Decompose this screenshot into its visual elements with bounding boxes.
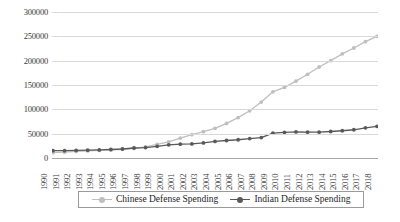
data-point-marker	[144, 146, 148, 150]
data-point-marker	[190, 142, 194, 146]
x-axis-tick-label: 1995	[97, 180, 107, 190]
data-point-marker	[167, 143, 171, 147]
data-point-marker	[178, 142, 182, 146]
data-point-marker	[121, 147, 125, 151]
chart-legend: Chinese Defense SpendingIndian Defense S…	[78, 191, 364, 208]
data-point-marker	[97, 148, 101, 152]
gridline	[52, 109, 378, 110]
x-axis-tick-label: 1996	[108, 180, 118, 190]
x-axis-tick-label: 2005	[213, 180, 223, 190]
data-point-marker	[213, 140, 217, 144]
x-axis-tick-label: 2016	[340, 180, 350, 190]
x-axis-tick-label: 2000	[155, 180, 165, 190]
data-point-marker	[225, 139, 229, 143]
x-axis-tick-label: 2012	[294, 180, 304, 190]
data-point-marker	[86, 148, 90, 152]
x-axis-tick-label: 2008	[247, 180, 257, 190]
x-axis-tick-label: 1993	[74, 180, 84, 190]
data-point-marker	[259, 136, 263, 140]
data-point-marker	[248, 137, 252, 141]
data-point-marker	[340, 52, 344, 56]
x-axis-tick-label: 2013	[305, 180, 315, 190]
legend-label: Chinese Defense Spending	[116, 195, 218, 205]
x-axis-tick-label: 2015	[328, 180, 338, 190]
data-point-marker	[155, 144, 159, 148]
data-point-marker	[178, 136, 182, 140]
legend-series-marker-icon	[230, 195, 250, 204]
defense-spending-line-chart: 050000100000150000200000250000300000 199…	[0, 0, 400, 222]
y-axis-tick-label: 300000	[2, 8, 48, 17]
x-axis-tick-label: 1999	[143, 180, 153, 190]
y-axis-tick-label: 150000	[2, 81, 48, 90]
data-point-marker	[283, 86, 287, 90]
data-point-marker	[340, 129, 344, 133]
legend-label: Indian Defense Spending	[254, 195, 350, 205]
y-axis-tick-label: 100000	[2, 105, 48, 114]
data-point-marker	[74, 149, 78, 153]
data-point-marker	[352, 128, 356, 132]
x-axis-tick-label: 2001	[166, 180, 176, 190]
series-line	[53, 36, 377, 152]
data-point-marker	[63, 149, 67, 153]
legend-entry[interactable]: Indian Defense Spending	[230, 195, 350, 205]
data-point-marker	[352, 46, 356, 50]
x-axis-labels: 1990199119921993199419951996199719981999…	[52, 160, 378, 190]
x-axis-tick-label: 2002	[178, 180, 188, 190]
x-axis-tick-label: 1992	[62, 180, 72, 190]
data-point-marker	[132, 146, 136, 150]
x-axis-tick-label: 2011	[282, 180, 292, 190]
y-axis-tick-label: 250000	[2, 32, 48, 41]
x-axis-tick-label: 1991	[51, 180, 61, 190]
data-point-marker	[236, 138, 240, 142]
data-point-marker	[259, 100, 263, 104]
x-axis-tick-label: 2004	[201, 180, 211, 190]
x-axis-tick-label: 2007	[236, 180, 246, 190]
data-point-marker	[317, 65, 321, 69]
legend-series-marker-icon	[92, 195, 112, 204]
x-axis-tick-label: 2006	[224, 180, 234, 190]
data-point-marker	[375, 124, 378, 128]
y-axis-tick-label: 0	[2, 154, 48, 163]
data-point-marker	[202, 141, 206, 145]
y-axis-tick-label: 50000	[2, 130, 48, 139]
data-point-marker	[306, 72, 310, 76]
plot-area	[52, 12, 378, 158]
data-point-marker	[109, 148, 113, 152]
data-point-marker	[225, 122, 229, 126]
data-point-marker	[236, 116, 240, 120]
y-axis-tick-label: 200000	[2, 57, 48, 66]
data-point-marker	[364, 126, 368, 130]
x-axis-tick-label: 2017	[351, 180, 361, 190]
gridline	[52, 61, 378, 62]
x-axis-tick-label: 1997	[120, 180, 130, 190]
x-axis-tick-label: 1998	[132, 180, 142, 190]
x-axis-tick-label: 2014	[317, 180, 327, 190]
x-axis-tick-label: 1994	[85, 180, 95, 190]
x-axis-tick-label: 1990	[39, 180, 49, 190]
data-point-marker	[294, 79, 298, 83]
data-point-marker	[271, 90, 275, 94]
x-axis-tick-label: 2010	[270, 180, 280, 190]
gridline	[52, 85, 378, 86]
x-axis-tick-label: 2009	[259, 180, 269, 190]
x-axis-tick-label: 2018	[363, 180, 373, 190]
gridline	[52, 134, 378, 135]
gridline	[52, 36, 378, 37]
x-axis-line	[52, 158, 378, 159]
legend-entry[interactable]: Chinese Defense Spending	[92, 195, 218, 205]
gridline	[52, 12, 378, 13]
x-axis-tick-label: 2003	[189, 180, 199, 190]
data-point-marker	[364, 40, 368, 44]
data-point-marker	[213, 126, 217, 130]
